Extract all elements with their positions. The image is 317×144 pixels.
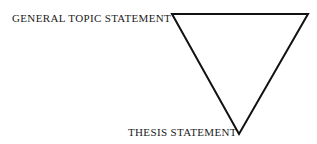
thesis-statement-label: THESIS STATEMENT bbox=[128, 127, 237, 138]
general-topic-statement-label: GENERAL TOPIC STATEMENT bbox=[12, 13, 171, 24]
triangle-outline bbox=[172, 14, 308, 134]
diagram-canvas: GENERAL TOPIC STATEMENT THESIS STATEMENT bbox=[0, 0, 317, 144]
